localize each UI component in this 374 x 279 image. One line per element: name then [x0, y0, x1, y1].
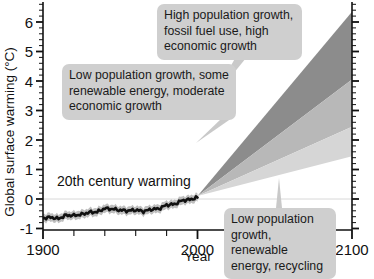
svg-text:2: 2 — [25, 132, 33, 149]
svg-text:1: 1 — [25, 161, 33, 178]
svg-text:4: 4 — [25, 73, 33, 90]
callout-low-scenario: Low population growth, renewable energy,… — [224, 208, 336, 279]
svg-text:1900: 1900 — [26, 241, 59, 258]
svg-text:5: 5 — [25, 43, 33, 60]
y-axis-title: Global surface warming (°C) — [2, 47, 17, 217]
svg-text:6: 6 — [25, 14, 33, 31]
svg-text:2100: 2100 — [335, 241, 368, 258]
x-axis-title: Year — [184, 249, 212, 264]
historical-label: 20th century warming — [57, 173, 191, 189]
callout-mid-scenario: Low population growth, some renewable en… — [62, 64, 236, 120]
svg-text:3: 3 — [25, 102, 33, 119]
callout-high-scenario: High population growth, fossil fuel use,… — [157, 4, 302, 60]
svg-text:0: 0 — [25, 191, 33, 208]
svg-text:-1: -1 — [20, 220, 33, 237]
